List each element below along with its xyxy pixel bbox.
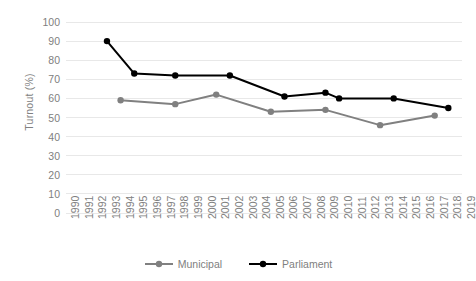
x-tick-label: 2003 (248, 196, 258, 219)
x-tick-label: 2017 (439, 196, 449, 219)
x-tick-label: 1998 (179, 196, 189, 219)
gridlines (66, 22, 462, 213)
x-tick-label: 2005 (275, 196, 285, 219)
data-point-parliament-1995 (131, 70, 137, 76)
x-tick-label: 2019 (466, 196, 476, 219)
data-point-municipal-2009 (322, 107, 328, 113)
x-tick-label: 1990 (70, 196, 80, 219)
data-point-parliament-2009 (322, 89, 328, 95)
x-tick-label: 2013 (384, 196, 394, 219)
data-point-parliament-2018 (445, 105, 451, 111)
data-point-municipal-1998 (172, 101, 178, 107)
data-point-municipal-2001 (213, 91, 219, 97)
x-tick-label: 1996 (152, 196, 162, 219)
x-tick-label: 2001 (220, 196, 230, 219)
data-point-parliament-2006 (281, 93, 287, 99)
legend-item-municipal[interactable]: Municipal (144, 258, 222, 270)
x-tick-label: 2012 (370, 196, 380, 219)
data-point-parliament-2014 (391, 95, 397, 101)
x-tick-label: 1992 (97, 196, 107, 219)
data-point-municipal-2017 (431, 112, 437, 118)
data-point-parliament-2010 (336, 95, 342, 101)
x-tick-label: 1991 (84, 196, 94, 219)
plot-area (0, 0, 476, 281)
x-tick-label: 2014 (398, 196, 408, 219)
x-tick-label: 2011 (357, 196, 367, 219)
x-tick-label: 2016 (425, 196, 435, 219)
x-tick-label: 1993 (111, 196, 121, 219)
x-tick-label: 2000 (207, 196, 217, 219)
x-tick-label: 2004 (261, 196, 271, 219)
data-point-municipal-2013 (377, 122, 383, 128)
data-point-municipal-2005 (268, 109, 274, 115)
data-point-parliament-1993 (104, 38, 110, 44)
x-tick-label: 1999 (193, 196, 203, 219)
legend-item-parliament[interactable]: Parliament (248, 258, 332, 270)
turnout-line-chart: Turnout (%) 1009080706050403020100 19901… (0, 0, 476, 281)
x-tick-label: 2009 (329, 196, 339, 219)
legend-label: Municipal (178, 259, 222, 270)
x-tick-label: 2008 (316, 196, 326, 219)
data-point-municipal-1994 (117, 97, 123, 103)
legend-marker-icon (248, 258, 278, 270)
data-point-parliament-1998 (172, 72, 178, 78)
x-tick-label: 2006 (288, 196, 298, 219)
x-tick-label: 2007 (302, 196, 312, 219)
data-point-parliament-2002 (227, 72, 233, 78)
legend-marker-icon (144, 258, 174, 270)
chart-legend: MunicipalParliament (0, 258, 476, 270)
data-series-layer (104, 38, 452, 128)
x-tick-label: 1995 (138, 196, 148, 219)
x-tick-label: 2015 (411, 196, 421, 219)
x-tick-label: 1994 (125, 196, 135, 219)
x-tick-label: 1997 (166, 196, 176, 219)
x-tick-label: 2018 (452, 196, 462, 219)
x-tick-label: 2002 (234, 196, 244, 219)
x-tick-label: 2010 (343, 196, 353, 219)
legend-label: Parliament (282, 259, 332, 270)
